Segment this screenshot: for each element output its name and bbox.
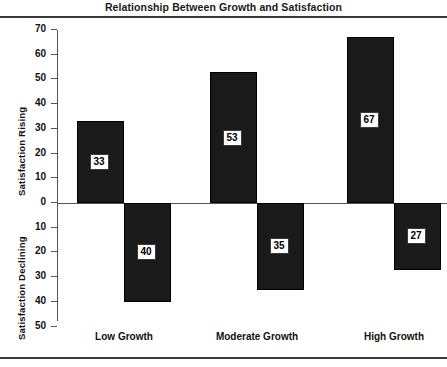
y-axis-tick-label: 40: [16, 295, 46, 306]
plot-area: 334053356727: [57, 30, 447, 321]
title-divider-top: [0, 16, 447, 18]
y-axis-tick-label: 50: [16, 72, 46, 83]
y-axis-tick-label: 30: [16, 270, 46, 281]
y-axis-tick-label: 20: [16, 147, 46, 158]
y-axis-tick-label: 70: [16, 23, 46, 34]
chart-divider-bottom: [0, 357, 447, 359]
y-axis-tick-label: 10: [16, 171, 46, 182]
chart-page: Relationship Between Growth and Satisfac…: [0, 0, 447, 367]
bar-value-label: 40: [137, 244, 156, 260]
y-axis-tick-label: 40: [16, 97, 46, 108]
x-axis-category-label: Moderate Growth: [197, 331, 317, 342]
y-axis-tick-label: 10: [16, 221, 46, 232]
y-axis-tick-label: 30: [16, 122, 46, 133]
x-axis-category-label: Low Growth: [64, 331, 184, 342]
y-axis-tick: [51, 326, 57, 327]
y-axis-tick-label: 0: [16, 196, 46, 207]
bar-value-label: 33: [90, 154, 109, 170]
y-axis-tick-label: 60: [16, 48, 46, 59]
bar-value-label: 35: [270, 238, 289, 254]
bar-value-label: 27: [407, 228, 426, 244]
bar-value-label: 53: [223, 130, 242, 146]
chart-title: Relationship Between Growth and Satisfac…: [0, 1, 447, 13]
x-axis-category-label: High Growth: [334, 331, 447, 342]
y-axis-tick-label: 50: [16, 320, 46, 331]
bar-value-label: 67: [360, 112, 379, 128]
y-axis-tick-label: 20: [16, 245, 46, 256]
